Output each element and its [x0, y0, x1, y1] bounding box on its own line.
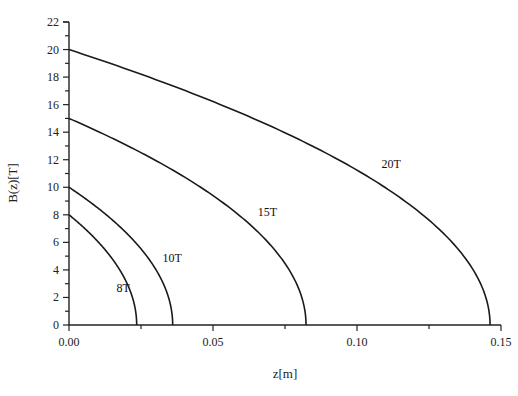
y-axis-ticks: 0246810121416182022 [47, 15, 69, 332]
x-tick-label: 0.10 [347, 335, 368, 349]
y-tick-label: 18 [47, 70, 59, 84]
y-tick-label: 0 [53, 318, 59, 332]
x-tick-label: 0.00 [59, 335, 80, 349]
y-axis-title: B(z)[T] [5, 163, 20, 203]
y-tick-label: 4 [53, 263, 59, 277]
y-tick-label: 10 [47, 180, 59, 194]
y-tick-label: 8 [53, 208, 59, 222]
curve-label-10t: 10T [163, 251, 183, 265]
y-tick-label: 16 [47, 98, 59, 112]
curves [69, 50, 490, 325]
curve-label-15t: 15T [258, 205, 278, 219]
curve-8t [69, 215, 137, 325]
curve-10t [69, 187, 173, 325]
y-tick-label: 14 [47, 125, 59, 139]
curve-label-8t: 8T [117, 281, 131, 295]
x-tick-label: 0.15 [491, 335, 512, 349]
x-axis-ticks: 0.000.050.100.15 [59, 325, 512, 349]
magnetic-field-chart: 0246810121416182022 0.000.050.100.15 8T1… [0, 0, 518, 396]
curve-label-20t: 20T [381, 157, 401, 171]
y-tick-label: 12 [47, 153, 59, 167]
curve-20t [69, 50, 490, 325]
x-axis-title: z[m] [273, 366, 298, 381]
x-tick-label: 0.05 [203, 335, 224, 349]
curve-15t [69, 118, 306, 325]
y-tick-label: 22 [47, 15, 59, 29]
y-tick-label: 20 [47, 43, 59, 57]
y-tick-label: 6 [53, 235, 59, 249]
y-tick-label: 2 [53, 290, 59, 304]
